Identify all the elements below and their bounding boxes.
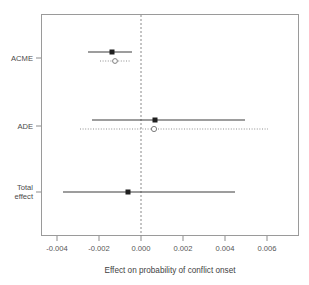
x-tick-label-3: 0.002 — [173, 244, 192, 253]
ade-point-sensitivity — [151, 126, 156, 131]
total-effect-point-estimate — [126, 190, 131, 195]
plot-frame — [42, 15, 299, 236]
y-axis-label-ade: ADE — [17, 122, 33, 131]
y-axis-label-acme: ACME — [11, 54, 33, 63]
x-axis-title: Effect on probability of conflict onset — [105, 266, 237, 275]
x-tick-label-1: -0.002 — [88, 244, 110, 253]
ade-point-estimate — [153, 118, 158, 123]
x-tick-label-0: -0.004 — [46, 244, 68, 253]
acme-point-sensitivity — [113, 59, 118, 64]
y-axis-label-effect: effect — [15, 192, 34, 201]
forest-plot-chart: ACME ADE Total effect -0.004 -0.002 0.00… — [0, 0, 309, 285]
x-tick-label-4: 0.004 — [215, 244, 234, 253]
y-axis-label-total: Total — [17, 183, 33, 192]
acme-point-estimate — [110, 50, 115, 55]
plot-canvas: ACME ADE Total effect -0.004 -0.002 0.00… — [0, 0, 309, 285]
x-tick-label-5: 0.006 — [257, 244, 276, 253]
x-tick-label-2: 0.000 — [131, 244, 150, 253]
